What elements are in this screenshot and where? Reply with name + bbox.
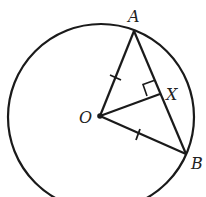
label-a: A [126,7,140,26]
segment-oa [100,31,134,116]
circle [8,24,194,197]
label-x: X [164,85,178,104]
geometry-diagram: A X O B [0,0,206,197]
right-angle-marker [143,81,154,97]
perpendicular-ox [100,94,160,116]
label-o: O [79,108,92,127]
label-b: B [190,154,203,173]
center-point-o [97,113,103,119]
